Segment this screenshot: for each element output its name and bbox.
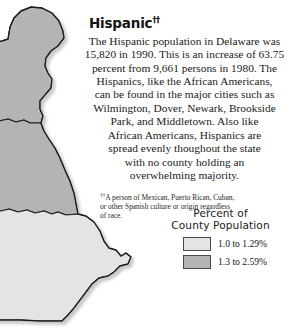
body-line: African Americans, Hispanics are	[80, 129, 289, 142]
body-line: can be found in the major cities such as	[80, 88, 289, 101]
article-text-panel: Hispanic†† The Hispanic population in De…	[78, 16, 291, 221]
page-title: Hispanic††	[89, 16, 291, 31]
legend-title-line-1: Percent of	[150, 207, 291, 219]
page-title-footnote-marker: ††	[152, 16, 159, 25]
body-line: 15,820 in 1990. This is an increase of 6…	[80, 48, 289, 61]
legend-items: 1.0 to 1.29% 1.3 to 2.59%	[150, 235, 291, 270]
map-legend: Percent of County Population 1.0 to 1.29…	[150, 207, 291, 271]
hispanic-delaware-infographic: Hispanic†† The Hispanic population in De…	[0, 0, 291, 331]
county-kent	[0, 119, 78, 215]
body-line: The Hispanic population in Delaware was	[80, 35, 289, 48]
legend-item: 1.3 to 2.59%	[183, 253, 291, 270]
body-line: with no county holding an	[80, 156, 289, 169]
body-line: Hispanics, like the African Americans,	[80, 75, 289, 88]
page-title-text: Hispanic	[89, 15, 152, 31]
body-line: spread evenly thoughout the state	[80, 142, 289, 155]
legend-item: 1.0 to 1.29%	[183, 235, 291, 252]
body-line: Park, and Middletown. Also like	[80, 115, 289, 128]
county-sussex	[0, 209, 131, 321]
body-line: Wilmington, Dover, Newark, Brookside	[80, 102, 289, 115]
legend-item-label: 1.0 to 1.29%	[218, 238, 267, 249]
county-new-castle	[0, 7, 64, 123]
legend-swatch-dark	[183, 255, 211, 269]
body-paragraph: The Hispanic population in Delaware was …	[78, 35, 291, 182]
body-line: percent from 9,661 persons in 1980. The	[80, 62, 289, 75]
legend-item-label: 1.3 to 2.59%	[218, 256, 267, 267]
legend-swatch-light	[183, 237, 211, 251]
legend-title-line-2: County Population	[150, 219, 291, 231]
body-line: overwhelming majority.	[80, 169, 289, 182]
footnote-text: A person of Mexican, Puerto Rican, Cuban…	[105, 194, 234, 203]
